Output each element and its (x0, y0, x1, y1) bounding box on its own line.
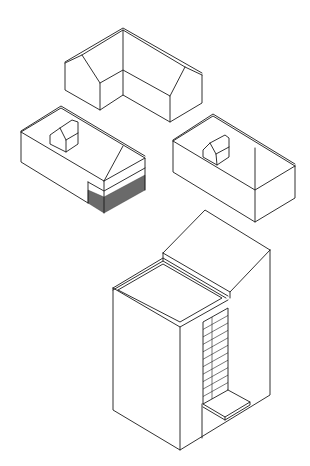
tower-house-with-shed-roof (113, 210, 270, 450)
edge-line (65, 28, 202, 73)
drawing-surface (0, 0, 310, 466)
entry-step (203, 402, 250, 420)
edge-line (113, 258, 228, 296)
edge-line (21, 106, 145, 156)
house-with-dormer-and-carport (21, 106, 145, 213)
edge-line (163, 210, 270, 253)
edge-line (100, 70, 170, 122)
edge-line (170, 67, 185, 96)
edge-line (173, 114, 295, 164)
house-with-dormer (173, 114, 295, 222)
edge-line (173, 116, 295, 166)
l-shaped-gabled-house (65, 28, 202, 122)
carport-shadow-hatch (88, 175, 145, 213)
edge-line (21, 132, 145, 190)
axonometric-diagram (0, 0, 310, 466)
dormer (203, 135, 229, 165)
edge-line (118, 264, 222, 322)
edge-line (65, 63, 202, 122)
edge-line (163, 250, 270, 292)
edge-line (21, 108, 145, 158)
edge-line (65, 30, 202, 75)
